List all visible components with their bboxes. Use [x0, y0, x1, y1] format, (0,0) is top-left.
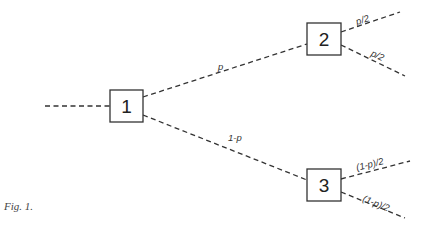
edge-1-to-3 — [143, 115, 307, 180]
edge-2-out-upper — [341, 12, 400, 32]
edge-label-p: p — [217, 61, 223, 72]
edge-label-3-upper: (1-p)/2 — [355, 155, 386, 173]
figure-caption: Fig. 1. — [4, 200, 33, 212]
edge-label-1-p: 1-p — [228, 132, 242, 143]
node-3-label: 3 — [319, 175, 330, 196]
edge-label-2-upper: p/2 — [353, 12, 371, 27]
node-1: 1 — [110, 90, 143, 122]
node-2-label: 2 — [319, 29, 330, 50]
edge-label-3-lower: (1-p)/2 — [361, 193, 392, 214]
edge-label-2-lower: p/2 — [369, 47, 387, 63]
edge-1-to-2 — [143, 44, 307, 97]
node-2: 2 — [307, 23, 341, 55]
node-1-label: 1 — [121, 96, 132, 117]
branching-diagram: p 1-p p/2 p/2 (1-p)/2 (1-p)/2 1 2 3 — [0, 0, 430, 226]
node-3: 3 — [307, 169, 341, 201]
